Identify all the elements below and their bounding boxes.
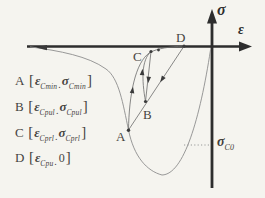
point-label-c: C xyxy=(133,49,142,65)
sigma-c0-subscript: C0 xyxy=(225,143,234,152)
legend-a-close-bracket: ] xyxy=(86,72,93,88)
sigma-axis-label: σ xyxy=(217,1,226,19)
legend-d-open-bracket: [ xyxy=(28,149,35,165)
sigma-axis-arrow-icon xyxy=(207,9,217,24)
partial-reloading-direction-arrow-icon xyxy=(146,77,151,84)
legend-a-separator: . xyxy=(58,79,61,90)
legend-c-sigma-sub: Cprl xyxy=(66,134,81,143)
legend-c-separator: . xyxy=(55,131,58,142)
legend-c-epsilon-sub: Cprl xyxy=(40,134,55,143)
legend-d-close-bracket: ] xyxy=(65,149,72,165)
point-c-dot xyxy=(149,50,152,53)
point-label-a: A xyxy=(116,129,125,145)
sigma-c0-label: σC0 xyxy=(217,132,234,152)
legend-c-letter: C xyxy=(15,125,24,140)
legend-d-letter: D xyxy=(15,150,25,165)
legend-a-open-bracket: [ xyxy=(28,72,35,88)
merge-point-dot xyxy=(157,49,160,52)
legend-b-epsilon-sub: Cpul xyxy=(40,108,55,117)
legend-b-sigma-sub: Cpul xyxy=(66,108,81,117)
legend-row-c: C[εCprl.σCprl] xyxy=(15,124,87,144)
point-label-d: D xyxy=(176,30,185,46)
legend-row-b: B[εCpul.σCpul] xyxy=(15,98,89,118)
legend-d-zero: 0 xyxy=(59,151,65,165)
legend-d-separator: . xyxy=(54,156,57,167)
reloading-direction-arrow-icon xyxy=(158,76,165,84)
point-b-dot xyxy=(144,100,147,103)
legend-row-d: D[εCpu.0] xyxy=(15,149,72,169)
stress-strain-diagram: σ ε A B C D σC0 A[εCmin.σCmin] B[εCpul.σ… xyxy=(0,0,265,198)
legend-a-letter: A xyxy=(15,73,25,88)
epsilon-axis-arrow-icon xyxy=(239,42,252,52)
sigma-c0-symbol: σ xyxy=(217,134,225,149)
epsilon-axis-label: ε xyxy=(238,22,244,38)
legend-b-close-bracket: ] xyxy=(82,98,89,114)
partial-unloading-direction-arrow-icon xyxy=(140,69,145,76)
legend-c-close-bracket: ] xyxy=(80,124,87,140)
legend-b-letter: B xyxy=(15,99,24,114)
legend-c-sigma: σ xyxy=(59,125,66,140)
point-a-dot xyxy=(127,129,130,132)
legend-row-a: A[εCmin.σCmin] xyxy=(15,72,93,92)
legend-a-sigma: σ xyxy=(62,73,69,88)
legend-d-epsilon-sub: Cpu xyxy=(40,159,53,168)
point-label-b: B xyxy=(143,107,152,123)
legend-a-epsilon-sub: Cmin xyxy=(40,82,57,91)
legend-a-sigma-sub: Cmin xyxy=(69,82,86,91)
